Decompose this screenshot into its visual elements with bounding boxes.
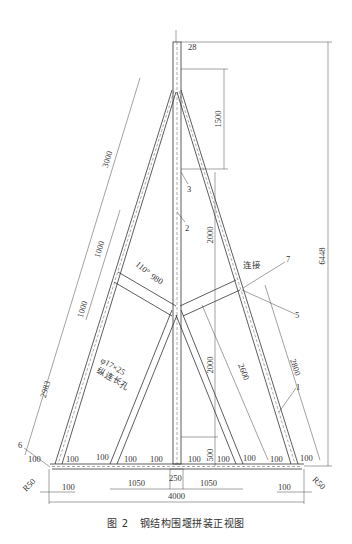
dim-foot-8: 100 [243, 453, 256, 463]
part-callouts: 3 2 5 7 1 6 [18, 172, 300, 467]
dim-brace-length: 980 [149, 271, 165, 286]
dim-inner-diagonal: 2600 [236, 362, 252, 382]
dim-base-left-edge: 100 [62, 482, 75, 492]
right-outer-leg [177, 90, 298, 464]
dim-2000-middle-group: 2000 [205, 172, 215, 305]
dim-brace-angle: 110° [134, 259, 153, 277]
dim-foot-1: 100 [28, 454, 41, 464]
dim-lower-span: 2000 [205, 357, 215, 374]
part-label-7: 7 [286, 254, 290, 264]
part-label-5: 5 [295, 310, 299, 320]
dim-base-total: 4000 [168, 491, 185, 501]
part-label-2: 2 [185, 223, 189, 233]
figure-caption: 图 2 钢结构围堰拼装正视图 [0, 515, 352, 530]
steel-cofferdam-front-view-drawing: 6448 28 1500 2000 2000 500 3000 2983 100… [0, 0, 352, 544]
dim-middle-span: 2000 [205, 227, 215, 244]
dim-top-offset: 28 [188, 42, 197, 52]
dim-foot-3: 100 [96, 452, 109, 462]
dim-left-leg-bottom: 2983 [38, 380, 53, 399]
part-label-1: 1 [296, 382, 300, 392]
dim-foot-5: 100 [150, 454, 163, 464]
dim-base-right-edge: 100 [278, 482, 291, 492]
central-mast [173, 30, 181, 464]
caption-number: 图 2 [107, 518, 128, 529]
dim-base-offset: 500 [205, 449, 215, 462]
dim-left-upper-seg: 1000 [92, 240, 107, 259]
right-diagonal-dimensions: 2600 2800 [202, 285, 320, 460]
dim-foot-9: 100 [270, 454, 283, 464]
dim-base-left-inner: 1050 [128, 478, 145, 488]
dim-foot-10: 100 [300, 453, 313, 463]
left-brace [114, 272, 176, 316]
dim-1500-group: 1500 [181, 69, 228, 169]
dim-total-height: 6448 [317, 248, 327, 265]
base-beam [50, 464, 304, 469]
connect-label: 连接 [243, 260, 261, 270]
lower-right-diagonal [176, 310, 243, 464]
foot-spacing-dimensions: 100 100 100 100 100 100 100 100 100 100 [28, 452, 313, 464]
dim-outer-right: 2800 [288, 358, 303, 377]
dim-foot-6: 100 [188, 454, 201, 464]
dim-left-leg-top: 3000 [100, 150, 115, 169]
dim-foot-7: 100 [217, 454, 230, 464]
part-label-3: 3 [187, 184, 191, 194]
base-dimensions: 100 1050 250 1050 100 4000 R50 R50 [20, 469, 327, 504]
dim-foot-4: 100 [124, 454, 137, 464]
dim-radius-left: R50 [20, 476, 37, 493]
right-brace [180, 280, 240, 316]
dim-upper-span: 1500 [213, 111, 223, 128]
part-label-6: 6 [18, 440, 22, 450]
total-height-dimension: 6448 [181, 42, 332, 466]
dim-radius-right: R50 [311, 474, 328, 491]
dim-foot-2: 100 [66, 454, 79, 464]
dim-base-center: 250 [169, 473, 182, 483]
dim-base-right-inner: 1050 [200, 478, 217, 488]
caption-title: 钢结构围堰拼装正视图 [140, 518, 245, 529]
